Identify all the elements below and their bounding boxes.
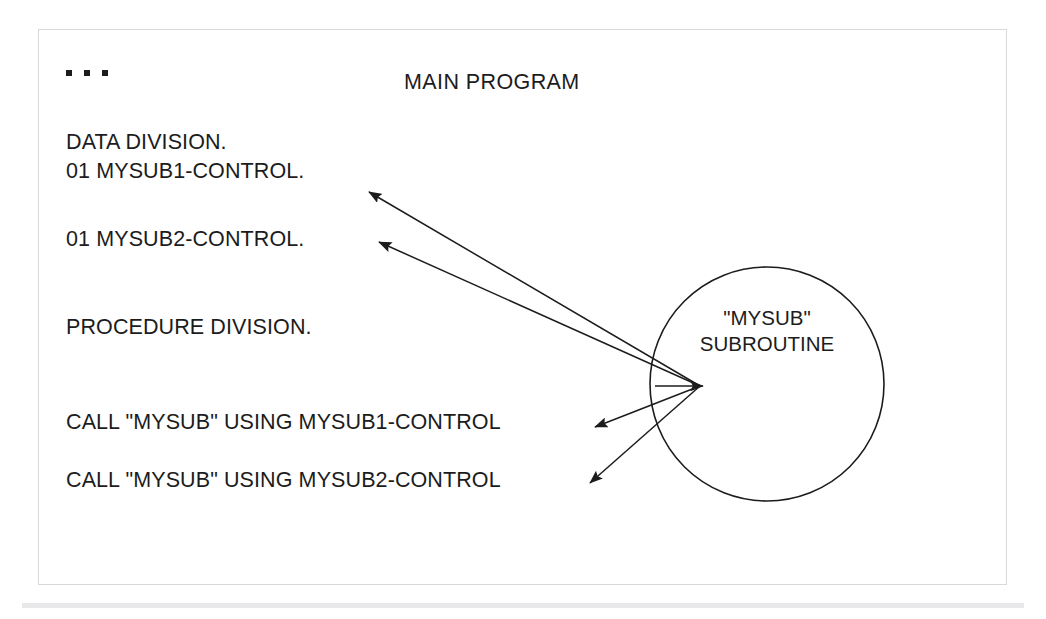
- bottom-separator-strip: [22, 603, 1024, 608]
- code-line-call-mysub1: CALL "MYSUB" USING MYSUB1-CONTROL: [66, 412, 501, 434]
- subroutine-name: "MYSUB": [650, 305, 884, 331]
- code-line-mysub1-control: 01 MYSUB1-CONTROL.: [66, 161, 304, 183]
- code-line-data-division: DATA DIVISION.: [66, 132, 227, 154]
- subroutine-label: "MYSUB" SUBROUTINE: [650, 305, 884, 357]
- code-ellipsis: [66, 70, 108, 76]
- ellipsis-dot-3: [102, 70, 108, 76]
- code-line-call-mysub2: CALL "MYSUB" USING MYSUB2-CONTROL: [66, 470, 501, 492]
- subroutine-kind: SUBROUTINE: [650, 331, 884, 357]
- code-line-procedure-division: PROCEDURE DIVISION.: [66, 317, 312, 339]
- ellipsis-dot-2: [84, 70, 90, 76]
- main-program-title: MAIN PROGRAM: [404, 70, 580, 95]
- ellipsis-dot-1: [66, 70, 72, 76]
- figure-page: MAIN PROGRAM DATA DIVISION. 01 MYSUB1-CO…: [0, 0, 1046, 619]
- code-line-mysub2-control: 01 MYSUB2-CONTROL.: [66, 229, 304, 251]
